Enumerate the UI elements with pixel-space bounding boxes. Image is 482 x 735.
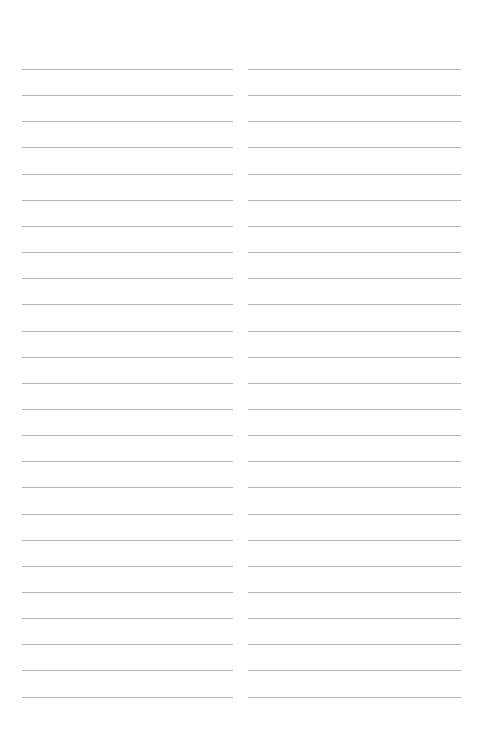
ruled-line <box>248 383 461 384</box>
ruled-line <box>248 514 461 515</box>
ruled-line <box>248 121 461 122</box>
ruled-line <box>22 200 233 201</box>
ruled-line <box>22 644 233 645</box>
ruled-line <box>22 331 233 332</box>
ruled-line <box>22 304 233 305</box>
ruled-line <box>248 174 461 175</box>
ruled-line <box>248 226 461 227</box>
ruled-line <box>22 357 233 358</box>
ruled-line <box>248 435 461 436</box>
ruled-line <box>248 147 461 148</box>
ruled-line <box>22 540 233 541</box>
ruled-line <box>22 383 233 384</box>
ruled-line <box>248 670 461 671</box>
ruled-line <box>22 121 233 122</box>
ruled-line <box>248 357 461 358</box>
ruled-line <box>248 566 461 567</box>
ruled-line <box>248 304 461 305</box>
ruled-line <box>22 147 233 148</box>
ruled-line <box>248 540 461 541</box>
ruled-line <box>22 174 233 175</box>
ruled-line <box>22 278 233 279</box>
ruled-line <box>22 69 233 70</box>
ruled-line <box>22 618 233 619</box>
ruled-line <box>248 618 461 619</box>
ruled-line <box>248 409 461 410</box>
ruled-line <box>22 487 233 488</box>
ruled-line <box>248 461 461 462</box>
ruled-line <box>22 697 233 698</box>
ruled-line <box>248 278 461 279</box>
ruled-line <box>22 514 233 515</box>
ruled-line <box>248 252 461 253</box>
ruled-line <box>22 592 233 593</box>
ruled-line <box>22 670 233 671</box>
ruled-line <box>248 95 461 96</box>
ruled-line <box>248 200 461 201</box>
ruled-line <box>22 461 233 462</box>
ruled-line <box>248 697 461 698</box>
ruled-line <box>248 487 461 488</box>
ruled-line <box>22 252 233 253</box>
ruled-line <box>22 435 233 436</box>
ruled-line <box>22 409 233 410</box>
ruled-line <box>248 331 461 332</box>
ruled-line <box>248 644 461 645</box>
ruled-line <box>248 69 461 70</box>
ruled-line <box>248 592 461 593</box>
ruled-line <box>22 566 233 567</box>
ruled-line <box>22 95 233 96</box>
ruled-line <box>22 226 233 227</box>
